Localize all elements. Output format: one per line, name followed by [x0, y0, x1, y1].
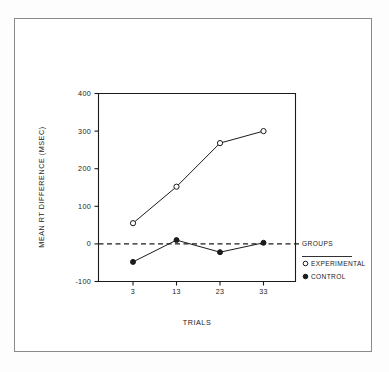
data-point-experimental-3	[130, 221, 135, 226]
y-axis-ticks	[95, 94, 99, 282]
series-control	[131, 238, 267, 265]
legend-entry-experimental[interactable]: EXPERIMENTAL	[303, 260, 365, 267]
figure-page: 400 300 200 100 0 -100 MEAN RT DIFFERENC…	[0, 0, 389, 372]
data-point-control-13	[174, 238, 179, 243]
data-point-experimental-13	[174, 184, 179, 189]
legend-entry-control[interactable]: CONTROL	[303, 273, 346, 280]
data-point-experimental-33	[261, 129, 266, 134]
data-point-control-3	[131, 259, 136, 264]
y-tick-label-300: 300	[78, 127, 91, 136]
data-point-control-23	[218, 250, 223, 255]
series-experimental-line	[133, 131, 264, 223]
y-tick-label-200: 200	[78, 164, 91, 173]
x-tick-label-23: 23	[216, 287, 225, 296]
legend-label-control: CONTROL	[311, 273, 346, 280]
y-tick-label-400: 400	[78, 89, 91, 98]
open-circle-icon	[303, 261, 308, 266]
x-tick-label-3: 3	[131, 287, 135, 296]
y-tick-label-neg100: -100	[75, 277, 91, 286]
y-tick-label-0: 0	[87, 239, 91, 248]
y-tick-label-100: 100	[78, 202, 91, 211]
data-point-control-33	[261, 240, 266, 245]
x-axis-ticks	[133, 282, 264, 286]
plot-frame-path	[99, 94, 296, 282]
data-point-experimental-23	[217, 141, 222, 146]
filled-circle-icon	[303, 274, 308, 279]
x-tick-label-13: 13	[172, 287, 181, 296]
x-axis-title: TRIALS	[183, 318, 211, 327]
x-tick-label-33: 33	[259, 287, 268, 296]
legend-label-experimental: EXPERIMENTAL	[311, 260, 366, 267]
y-axis-title: MEAN RT DIFFERENCE (MSEC)	[37, 126, 46, 247]
series-experimental	[130, 129, 266, 226]
y-axis-tick-labels: 400 300 200 100 0 -100	[75, 89, 91, 286]
legend-title: GROUPS	[302, 240, 333, 247]
line-chart: 400 300 200 100 0 -100 MEAN RT DIFFERENC…	[0, 0, 389, 372]
x-axis-tick-labels: 3 13 23 33	[131, 287, 268, 296]
plot-frame	[99, 94, 296, 282]
legend: GROUPS EXPERIMENTAL CONTROL	[302, 240, 366, 280]
